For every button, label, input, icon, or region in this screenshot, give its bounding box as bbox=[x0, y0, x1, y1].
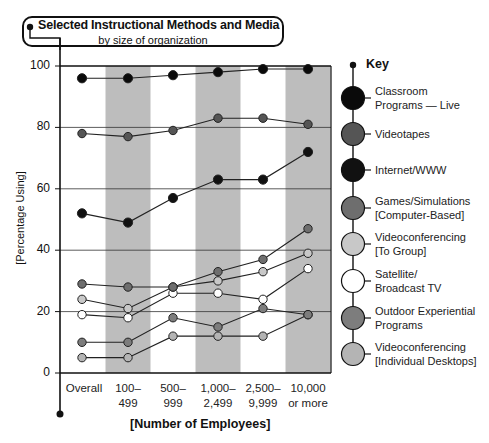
legend-marker bbox=[342, 343, 365, 366]
data-point bbox=[304, 120, 312, 128]
data-point bbox=[214, 114, 222, 122]
data-point bbox=[169, 314, 177, 322]
data-point bbox=[214, 332, 222, 340]
y-axis-label: [Percentage Using] bbox=[14, 158, 26, 278]
x-tick-label: 500–999 bbox=[148, 381, 198, 411]
data-point bbox=[123, 218, 132, 227]
data-point bbox=[78, 295, 86, 303]
x-tick-label: Overall bbox=[59, 381, 109, 396]
y-tick-label: 100 bbox=[20, 58, 50, 72]
data-point bbox=[259, 267, 267, 275]
legend-marker bbox=[342, 87, 365, 110]
data-point bbox=[123, 74, 132, 83]
legend-item: Satellite/Broadcast TV bbox=[375, 267, 441, 295]
legend-item: Videoconferencing[Individual Desktops] bbox=[375, 340, 477, 368]
data-point bbox=[168, 193, 177, 202]
data-point bbox=[78, 338, 86, 346]
data-point bbox=[259, 114, 267, 122]
shaded-band bbox=[286, 66, 331, 373]
data-point bbox=[124, 353, 132, 361]
x-tick-label: 10,000or more bbox=[283, 381, 333, 411]
data-point bbox=[304, 249, 312, 257]
legend-marker bbox=[342, 123, 365, 146]
data-point bbox=[259, 255, 267, 263]
data-point bbox=[304, 225, 312, 233]
data-point bbox=[214, 277, 222, 285]
data-point bbox=[213, 68, 222, 77]
data-point bbox=[77, 74, 86, 83]
chart-title: Selected Instructional Methods and Media bbox=[38, 18, 279, 32]
data-point bbox=[214, 323, 222, 331]
legend-item: Internet/WWW bbox=[375, 163, 447, 177]
data-point bbox=[124, 283, 132, 291]
data-point bbox=[303, 64, 312, 73]
data-point bbox=[168, 71, 177, 80]
data-point bbox=[78, 129, 86, 137]
legend-title: Key bbox=[366, 57, 389, 71]
data-point bbox=[124, 314, 132, 322]
data-point bbox=[78, 353, 86, 361]
legend-markers bbox=[342, 62, 372, 366]
chart-subtitle: by size of organization bbox=[22, 34, 284, 46]
data-point bbox=[169, 283, 177, 291]
data-point bbox=[169, 126, 177, 134]
data-point bbox=[213, 175, 222, 184]
data-point bbox=[258, 64, 267, 73]
data-point bbox=[169, 332, 177, 340]
data-point bbox=[214, 289, 222, 297]
data-point bbox=[77, 209, 86, 218]
legend-item: ClassroomPrograms — Live bbox=[375, 84, 460, 112]
legend-item: Videotapes bbox=[375, 127, 430, 141]
x-axis-label: [Number of Employees] bbox=[130, 417, 270, 431]
data-point bbox=[214, 267, 222, 275]
legend-item: Outdoor ExperientialPrograms bbox=[375, 304, 475, 332]
data-point bbox=[303, 147, 312, 156]
legend-marker bbox=[342, 197, 365, 220]
data-point bbox=[258, 175, 267, 184]
x-tick-label: 100–499 bbox=[103, 381, 153, 411]
x-tick-label: 1,000–2,499 bbox=[193, 381, 243, 411]
y-tick-label: 80 bbox=[20, 119, 50, 133]
data-point bbox=[259, 295, 267, 303]
legend-marker bbox=[342, 159, 365, 182]
data-point bbox=[304, 310, 312, 318]
data-point bbox=[124, 132, 132, 140]
legend-marker bbox=[342, 270, 365, 293]
data-point bbox=[124, 338, 132, 346]
legend-item: Games/Simulations[Computer-Based] bbox=[375, 194, 470, 222]
y-tick-label: 0 bbox=[20, 365, 50, 379]
x-tick-label: 2,500–9,999 bbox=[238, 381, 288, 411]
y-tick-label: 20 bbox=[20, 304, 50, 318]
data-point bbox=[78, 280, 86, 288]
data-point bbox=[78, 310, 86, 318]
data-point bbox=[124, 304, 132, 312]
data-point bbox=[259, 332, 267, 340]
data-point bbox=[304, 264, 312, 272]
legend-marker bbox=[342, 307, 365, 330]
legend-item: Videoconferencing[To Group] bbox=[375, 230, 466, 258]
legend-marker bbox=[342, 233, 365, 256]
data-point bbox=[259, 304, 267, 312]
